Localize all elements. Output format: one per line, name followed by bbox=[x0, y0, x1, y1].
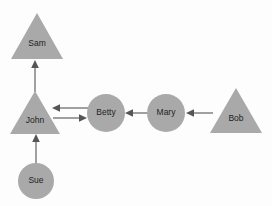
node-john[interactable]: John bbox=[10, 91, 60, 134]
edge-betty-john[interactable] bbox=[52, 104, 88, 111]
arrowhead-up-icon bbox=[31, 60, 39, 68]
edge-bob-mary[interactable] bbox=[186, 109, 213, 116]
graph-svg: Sam John Sue Betty Mary Bob bbox=[0, 0, 272, 206]
arrowhead-left-icon bbox=[125, 109, 133, 116]
node-sam[interactable]: Sam bbox=[11, 13, 63, 59]
triangle-shape bbox=[10, 91, 60, 134]
node-layer: Sam John Sue Betty Mary Bob bbox=[10, 13, 262, 199]
arrowhead-right-icon bbox=[79, 114, 87, 121]
edge-john-sam[interactable] bbox=[31, 60, 39, 92]
triangle-shape bbox=[11, 13, 63, 59]
circle-shape bbox=[18, 163, 54, 199]
edge-mary-betty[interactable] bbox=[125, 109, 147, 116]
edge-sue-john[interactable] bbox=[32, 134, 40, 163]
node-sue[interactable]: Sue bbox=[18, 163, 54, 199]
triangle-shape bbox=[210, 88, 262, 133]
circle-shape bbox=[147, 94, 185, 132]
arrowhead-left-icon bbox=[186, 109, 194, 116]
node-bob[interactable]: Bob bbox=[210, 88, 262, 133]
node-mary[interactable]: Mary bbox=[147, 94, 185, 132]
node-betty[interactable]: Betty bbox=[87, 94, 125, 132]
edge-john-betty[interactable] bbox=[53, 114, 87, 121]
circle-shape bbox=[87, 94, 125, 132]
diagram-canvas: Sam John Sue Betty Mary Bob bbox=[0, 0, 272, 206]
arrowhead-up-icon bbox=[32, 134, 40, 142]
arrowhead-left-icon bbox=[52, 104, 60, 111]
